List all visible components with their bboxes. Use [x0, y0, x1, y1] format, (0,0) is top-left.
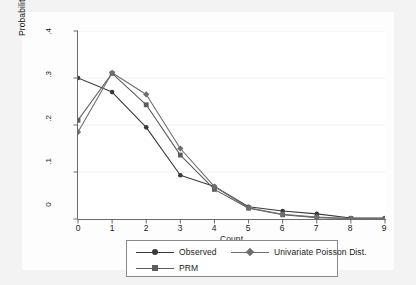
legend-key-prm — [136, 263, 174, 273]
legend-label-observed: Observed — [179, 247, 217, 257]
data-point — [144, 102, 149, 107]
data-point — [78, 76, 80, 81]
x-tick-label: 8 — [343, 223, 357, 233]
x-tick-label: 4 — [207, 223, 221, 233]
data-point — [382, 216, 385, 219]
y-tick-label: .1 — [44, 154, 53, 170]
x-tick-label: 1 — [105, 223, 119, 233]
plot-area — [78, 31, 385, 219]
data-point — [178, 173, 183, 178]
y-tick-label: .3 — [44, 67, 53, 83]
legend-item-prm[interactable]: PRM — [136, 261, 198, 275]
data-point — [110, 90, 115, 95]
chart-svg — [78, 31, 385, 219]
y-tick-label: .2 — [44, 111, 53, 127]
diamond-marker-icon — [246, 247, 254, 255]
figure-container: Probability of Count .4 .3 .2 .1 0 0 1 2… — [0, 0, 416, 285]
legend-item-univariate-poisson[interactable]: Univariate Poisson Dist. — [231, 245, 367, 259]
legend-item-observed[interactable]: Observed — [136, 245, 217, 259]
data-point — [143, 91, 149, 97]
data-point — [178, 153, 183, 158]
square-marker-icon — [152, 265, 158, 271]
data-point — [144, 125, 149, 130]
figure-canvas: Probability of Count .4 .3 .2 .1 0 0 1 2… — [22, 12, 394, 270]
x-tick-label: 9 — [377, 223, 391, 233]
chart-legend: Observed Univariate Poisson Dist. PRM — [126, 240, 338, 277]
x-tick-label: 2 — [139, 223, 153, 233]
y-axis-title: Probability of Count — [17, 0, 27, 36]
y-tick-label: 0 — [44, 197, 53, 213]
data-point — [78, 118, 80, 123]
legend-label-prm: PRM — [179, 263, 198, 273]
x-tick-label: 3 — [173, 223, 187, 233]
circle-marker-icon — [152, 249, 158, 255]
y-tick-label: .4 — [44, 24, 53, 40]
legend-key-univariate-poisson — [231, 247, 269, 257]
x-tick-label: 6 — [275, 223, 289, 233]
legend-label-univariate-poisson: Univariate Poisson Dist. — [274, 247, 367, 257]
legend-key-observed — [136, 247, 174, 257]
x-tick-label: 5 — [241, 223, 255, 233]
x-tick-label: 7 — [309, 223, 323, 233]
x-tick-label: 0 — [71, 223, 85, 233]
